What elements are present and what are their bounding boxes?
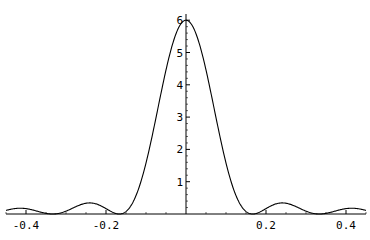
y-tick-label: 2 bbox=[176, 143, 183, 156]
y-tick-label: 5 bbox=[176, 47, 183, 60]
x-tick-label: -0.2 bbox=[93, 219, 120, 232]
y-tick-label: 4 bbox=[176, 79, 183, 92]
x-tick-label: 0.4 bbox=[336, 219, 356, 232]
axes: -0.4-0.20.20.4 123456 bbox=[6, 14, 366, 232]
x-tick-label: -0.4 bbox=[13, 219, 40, 232]
y-tick-label: 3 bbox=[176, 111, 183, 124]
y-ticks: 123456 bbox=[176, 14, 190, 207]
chart-canvas: -0.4-0.20.20.4 123456 bbox=[0, 0, 370, 240]
y-tick-label: 1 bbox=[176, 176, 183, 189]
x-tick-label: 0.2 bbox=[256, 219, 276, 232]
